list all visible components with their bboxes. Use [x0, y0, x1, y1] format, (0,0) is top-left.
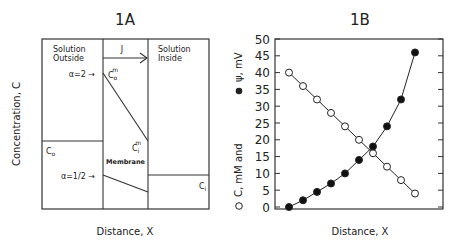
panel-1b: 1B 05101520253035404550 Distance, X C, m… — [233, 11, 443, 237]
filled-data-point — [300, 197, 307, 204]
label-solution-outside-1: Solution — [53, 45, 86, 54]
figure: 1A J Solution Outside Solution Inside Me… — [0, 0, 457, 249]
y-tick-label: 25 — [255, 117, 270, 131]
open-circle-legend-icon — [236, 203, 243, 210]
y-tick-label: 50 — [255, 33, 270, 47]
panel-1a-xlabel: Distance, X — [97, 226, 154, 237]
panel-1b-ylabel: C, mM and ψ, mV — [233, 52, 244, 209]
label-solution-inside-2: Inside — [158, 54, 182, 63]
open-data-point — [342, 123, 349, 130]
y-tick-label: 20 — [255, 133, 270, 147]
panel-1b-title: 1B — [350, 11, 370, 29]
y-tick-label: 40 — [255, 66, 270, 80]
y-tick-label: 15 — [255, 150, 270, 164]
c-i-m-label: Cim — [132, 139, 141, 154]
alpha-half-label: α=1/2 → — [61, 172, 95, 181]
series-line — [289, 52, 415, 207]
y-tick-label: 10 — [255, 167, 270, 181]
open-data-point — [356, 136, 363, 143]
ylabel-psi: ψ, mV — [233, 52, 244, 82]
panel-1a-ylabel: Concentration, C — [11, 82, 22, 166]
filled-data-point — [384, 123, 391, 130]
y-tick-label: 45 — [255, 49, 270, 63]
ylabel-c: C, mM and — [233, 143, 244, 197]
y-tick-label: 5 — [262, 184, 270, 198]
filled-data-point — [412, 49, 419, 56]
filled-data-point — [356, 156, 363, 163]
filled-data-point — [370, 143, 377, 150]
flux-label: J — [120, 45, 123, 54]
panel-1a-title: 1A — [115, 11, 136, 29]
filled-data-point — [328, 180, 335, 187]
filled-circle-legend-icon — [236, 88, 243, 95]
filled-data-point — [314, 188, 321, 195]
c-o-m-label: Com — [108, 66, 118, 81]
alpha-2-label: α=2 → — [69, 70, 96, 79]
label-membrane: Membrane — [106, 158, 146, 166]
panel-1a: 1A J Solution Outside Solution Inside Me… — [11, 11, 209, 237]
panel-1b-xlabel: Distance, X — [332, 226, 389, 237]
y-axis-ticks: 05101520253035404550 — [255, 33, 443, 215]
y-tick-label: 0 — [262, 201, 270, 215]
label-solution-inside-1: Solution — [158, 45, 191, 54]
alpha-half-profile — [103, 175, 148, 192]
plot-frame — [275, 39, 443, 209]
open-data-point — [384, 163, 391, 170]
open-data-point — [328, 109, 335, 116]
filled-data-point — [398, 96, 405, 103]
series-line — [289, 73, 415, 194]
open-data-point — [300, 83, 307, 90]
open-data-point — [412, 190, 419, 197]
open-data-point — [370, 150, 377, 157]
y-tick-label: 35 — [255, 83, 270, 97]
plot-series — [286, 49, 419, 211]
open-data-point — [286, 69, 293, 76]
y-tick-label: 30 — [255, 100, 270, 114]
alpha-2-profile — [103, 73, 148, 141]
filled-data-point — [342, 170, 349, 177]
c-i-label: Ci — [199, 182, 207, 192]
label-solution-outside-2: Outside — [53, 54, 84, 63]
filled-data-point — [286, 204, 293, 211]
open-data-point — [398, 177, 405, 184]
open-data-point — [314, 96, 321, 103]
c-o-label: Co — [46, 147, 56, 157]
